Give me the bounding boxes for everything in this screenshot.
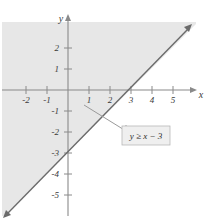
callout-box[interactable]: y ≥ x − 3: [122, 126, 170, 145]
x-tick-label-3: 3: [128, 95, 134, 105]
x-tick-label-1: 1: [87, 95, 92, 105]
x-tick-label-neg2: -2: [22, 95, 30, 105]
x-tick-label-neg1: -1: [43, 95, 51, 105]
y-tick-label-neg5: -5: [52, 190, 60, 200]
y-axis-label: y: [58, 13, 64, 24]
graph-svg: y ≥ x − 3 y x -2 -1 1 2 3 4 5 2 1 -1 -2 …: [0, 0, 210, 224]
y-tick-label-neg2: -2: [52, 127, 60, 137]
y-tick-label-1: 1: [55, 64, 60, 74]
x-tick-label-5: 5: [171, 95, 176, 105]
y-axis-arrow: [65, 14, 71, 21]
y-tick-label-neg3: -3: [52, 148, 60, 158]
x-axis-label: x: [198, 89, 204, 100]
inequality-graph-figure: y ≥ x − 3 y x -2 -1 1 2 3 4 5 2 1 -1 -2 …: [0, 0, 210, 224]
x-axis-arrow: [190, 87, 197, 93]
callout-label: y ≥ x − 3: [129, 131, 163, 141]
y-tick-label-neg4: -4: [52, 169, 60, 179]
y-tick-label-neg1: -1: [52, 106, 60, 116]
y-tick-label-2: 2: [55, 43, 60, 53]
x-tick-label-4: 4: [150, 95, 155, 105]
x-tick-label-2: 2: [108, 95, 113, 105]
